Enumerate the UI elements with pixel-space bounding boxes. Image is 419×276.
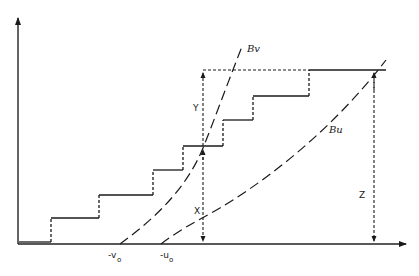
label-x: X bbox=[194, 206, 200, 216]
label-neg-u0: -u o bbox=[160, 250, 173, 264]
label-z: Z bbox=[359, 190, 365, 200]
svg-text:-u: -u bbox=[160, 250, 169, 260]
axes bbox=[18, 18, 406, 244]
label-y: Y bbox=[192, 103, 199, 113]
svg-text:o: o bbox=[117, 256, 121, 264]
svg-text:-v: -v bbox=[108, 250, 117, 260]
curve-bu bbox=[161, 60, 386, 244]
label-bv: Bv bbox=[246, 43, 260, 54]
svg-text:o: o bbox=[169, 256, 173, 264]
label-bu: Bu bbox=[328, 124, 343, 135]
label-neg-v0: -v o bbox=[108, 250, 121, 264]
curve-bv bbox=[120, 44, 243, 244]
staircase-curve-diagram: Bv Bu Y X Z -v o -u o bbox=[0, 0, 419, 276]
